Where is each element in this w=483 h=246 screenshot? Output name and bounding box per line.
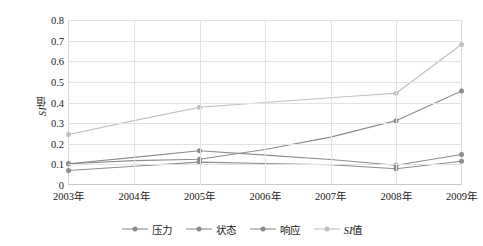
legend-item[interactable]: 压力 [121, 222, 172, 237]
legend-marker-icon [185, 224, 213, 234]
legend-item[interactable]: 响应 [249, 222, 300, 237]
x-axis-tick-labels: 2003年2004年2005年2006年2007年2008年2009年 [68, 188, 462, 206]
legend-label: 响应 [280, 222, 300, 237]
y-tick-label: 0.8 [51, 15, 64, 26]
x-tick-label: 2006年 [250, 188, 281, 203]
legend-item[interactable]: 状态 [185, 222, 236, 237]
legend-label: SI值 [344, 222, 363, 237]
y-axis-tick-labels: 00.10.20.30.40.50.60.70.8 [34, 14, 64, 192]
data-point-marker [459, 159, 464, 164]
y-tick-label: 0.2 [51, 138, 64, 149]
legend-label: 压力 [152, 222, 172, 237]
x-tick-label: 2008年 [381, 188, 412, 203]
y-tick-label: 0.1 [51, 159, 64, 170]
y-tick-label: 0.3 [51, 118, 64, 129]
data-point-marker [459, 42, 464, 47]
y-tick-label: 0.5 [51, 76, 64, 87]
x-tick-label: 2009年 [446, 188, 477, 203]
data-point-marker [66, 132, 71, 137]
vertical-gridline [134, 20, 135, 185]
vertical-gridline [200, 20, 201, 185]
legend-marker-icon [121, 224, 149, 234]
y-tick-label: 0.4 [51, 97, 64, 108]
chart-legend: 压力状态响应SI值 [0, 219, 483, 239]
vertical-gridline [331, 20, 332, 185]
data-point-marker [459, 152, 464, 157]
legend-marker-icon [249, 224, 277, 234]
vertical-gridline [396, 20, 397, 185]
data-point-marker [66, 168, 71, 173]
legend-label: 状态 [216, 222, 236, 237]
vertical-gridline [265, 20, 266, 185]
plot-area [68, 20, 462, 185]
legend-label-italic: SI [344, 225, 353, 236]
y-tick-label: 0.6 [51, 56, 64, 67]
legend-marker-icon [313, 224, 341, 234]
x-tick-label: 2004年 [119, 188, 150, 203]
legend-item[interactable]: SI值 [313, 222, 363, 237]
y-tick-label: 0.7 [51, 35, 64, 46]
x-tick-label: 2005年 [184, 188, 215, 203]
chart-figure: SI值 00.10.20.30.40.50.60.70.8 2003年2004年… [0, 0, 483, 246]
x-tick-label: 2003年 [53, 188, 84, 203]
x-tick-label: 2007年 [315, 188, 346, 203]
data-point-marker [459, 88, 464, 93]
